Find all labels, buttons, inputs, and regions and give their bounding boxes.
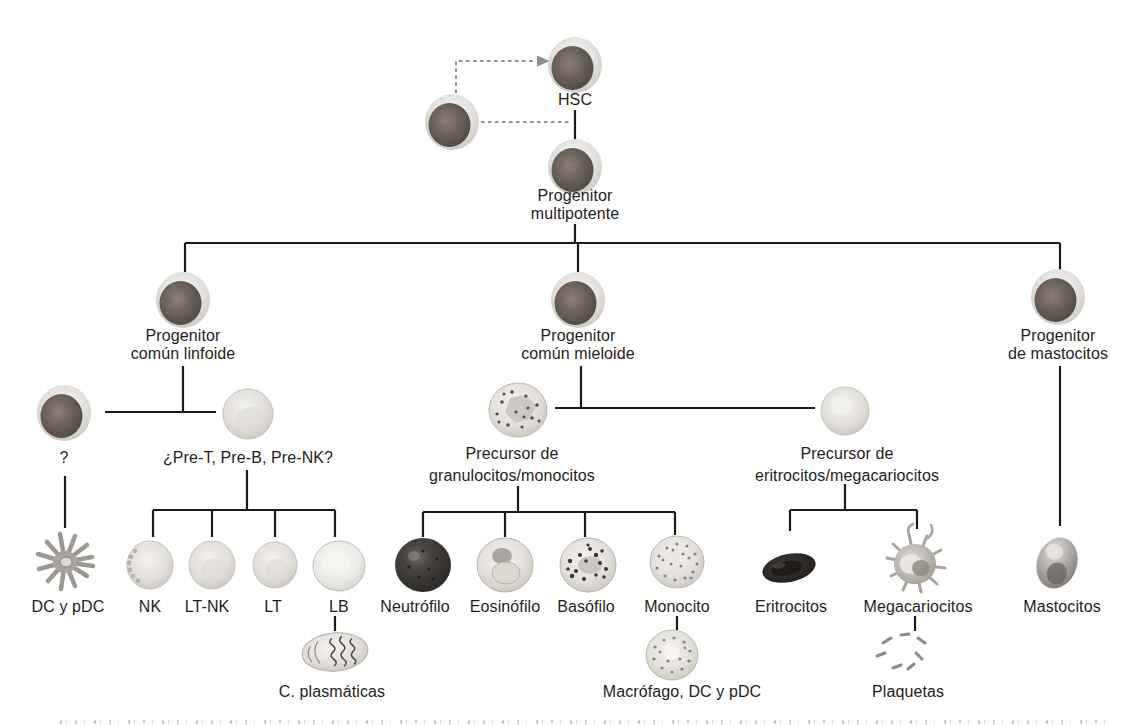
nk-cell-icon	[127, 541, 173, 589]
hematopoiesis-diagram: HSC Progenitor multipotente Progenitor c…	[0, 0, 1143, 725]
platelets-icon	[877, 634, 925, 669]
mast-cell-icon	[1030, 532, 1084, 594]
macrophage-cell-icon	[646, 630, 698, 680]
mast-progenitor-cell-icon	[1031, 269, 1085, 325]
label-multipotent-line1: Progenitor	[538, 187, 613, 205]
lt-nk-cell-icon	[189, 541, 235, 589]
lymphoid-progenitor-cell-icon	[156, 272, 210, 328]
label-unknown: ?	[60, 449, 69, 467]
label-macrophage: Macrófago, DC y pDC	[603, 683, 761, 701]
self-renewing-hsc-cell-icon	[425, 94, 479, 150]
label-lymphoid-line1: Progenitor	[146, 327, 221, 345]
label-monocyte: Monocito	[644, 598, 710, 616]
label-myeloid-line2: común mieloide	[521, 345, 634, 363]
lb-cell-icon	[313, 541, 365, 591]
monocyte-cell-icon	[650, 536, 704, 588]
label-gm-precursor-line2: granulocitos/monocitos	[429, 467, 595, 485]
label-multipotent-line2: multipotente	[531, 205, 619, 223]
label-mast-cells: Mastocitos	[1023, 598, 1100, 616]
self-renewal-arrow-line	[456, 61, 536, 93]
basophil-cell-icon	[560, 538, 616, 592]
label-lt: LT	[264, 598, 282, 616]
label-mast-progenitor-line2: de mastocitos	[1008, 345, 1108, 363]
connector-erythro-mega-branch	[790, 484, 917, 531]
megakaryocyte-cell-icon	[887, 524, 945, 592]
label-pre-lymphocytes: ¿Pre-T, Pre-B, Pre-NK?	[163, 449, 333, 467]
connector-myeloid-junction	[555, 366, 815, 408]
label-hsc: HSC	[558, 91, 592, 109]
label-lb: LB	[329, 598, 349, 616]
erythrocyte-cell-icon	[760, 549, 819, 588]
label-plasma-cells: C. plasmáticas	[279, 683, 385, 701]
connector-pre-lymph-branch	[153, 470, 335, 537]
label-eosinophil: Eosinófilo	[470, 598, 540, 616]
unknown-lymphoid-cell-icon	[37, 385, 91, 441]
label-basophil: Basófilo	[557, 598, 615, 616]
hsc-cell-icon	[548, 37, 602, 93]
dendritic-cell-icon	[38, 534, 93, 589]
label-neutrophil: Neutrófilo	[380, 598, 449, 616]
label-lt-nk: LT-NK	[185, 598, 230, 616]
label-em-precursor-line1: Precursor de	[801, 445, 894, 463]
cropped-caption-text-tops	[60, 719, 1105, 725]
cropped-caption-marks	[60, 720, 1105, 724]
label-lymphoid-line2: común linfoide	[131, 345, 236, 363]
lt-cell-icon	[253, 542, 297, 588]
neutrophil-cell-icon	[395, 538, 451, 592]
plasma-cell-icon	[300, 630, 369, 674]
eosinophil-cell-icon	[477, 538, 533, 592]
connector-lymphoid-junction	[105, 366, 216, 412]
label-gm-precursor-line1: Precursor de	[466, 445, 559, 463]
label-mast-progenitor-line1: Progenitor	[1021, 327, 1096, 345]
label-platelets: Plaquetas	[872, 683, 944, 701]
label-megakaryocytes: Megacariocitos	[863, 598, 972, 616]
label-nk: NK	[139, 598, 161, 616]
granulocyte-monocyte-precursor-cell-icon	[489, 383, 547, 437]
label-dc: DC y pDC	[32, 598, 105, 616]
myeloid-progenitor-cell-icon	[551, 272, 605, 328]
pre-lymphocyte-cell-icon	[223, 389, 273, 439]
label-em-precursor-line2: eritrocitos/megacariocitos	[755, 467, 939, 485]
label-erythrocytes: Eritrocitos	[755, 598, 827, 616]
erythro-mega-precursor-cell-icon	[821, 387, 869, 435]
label-myeloid-line1: Progenitor	[541, 327, 616, 345]
connector-granulocyte-branch	[423, 486, 675, 537]
